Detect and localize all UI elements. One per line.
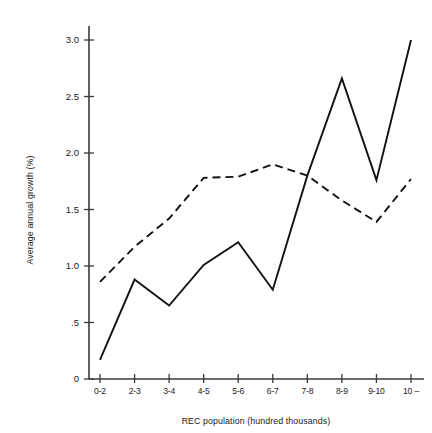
x-axis-ticks: 0-22-33-44-55-66-77-88-99-1010 – <box>94 374 419 396</box>
x-axis-title: REC population (hundred thousands) <box>182 416 331 426</box>
x-tick-label: 7-8 <box>301 386 313 396</box>
series-line-dashed <box>100 164 411 282</box>
series-line-solid <box>100 40 411 360</box>
y-tick-label: 3.0 <box>66 34 79 45</box>
x-tick-label: 4-5 <box>198 386 210 396</box>
line-chart: 0.51.01.52.02.53.0 0-22-33-44-55-66-77-8… <box>0 0 432 433</box>
x-tick-label: 6-7 <box>267 386 279 396</box>
y-axis-title: Average annual growth (%) <box>25 156 35 265</box>
y-tick-label: .5 <box>71 317 79 328</box>
x-tick-label: 9-10 <box>368 386 385 396</box>
axes-group <box>89 26 424 379</box>
x-tick-label: 10 – <box>403 386 419 396</box>
x-tick-label: 3-4 <box>163 386 175 396</box>
y-tick-label: 1.0 <box>66 260 79 271</box>
y-tick-label: 2.5 <box>66 91 79 102</box>
x-tick-label: 8-9 <box>336 386 348 396</box>
x-tick-label: 2-3 <box>129 386 141 396</box>
chart-container: 0.51.01.52.02.53.0 0-22-33-44-55-66-77-8… <box>0 0 432 433</box>
x-tick-label: 5-6 <box>232 386 244 396</box>
y-tick-label: 1.5 <box>66 204 79 215</box>
data-series-group <box>100 40 411 360</box>
y-tick-label: 0 <box>74 373 79 384</box>
y-tick-label: 2.0 <box>66 147 79 158</box>
x-tick-label: 0-2 <box>94 386 106 396</box>
